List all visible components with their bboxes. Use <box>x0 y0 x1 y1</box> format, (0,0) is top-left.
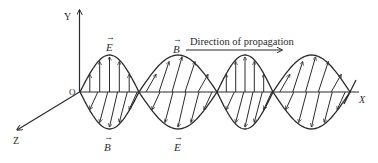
b-field-vector <box>100 92 108 122</box>
wave-curve-upper-2 <box>139 55 217 92</box>
b-field-vector <box>293 62 303 92</box>
wave-curve-lower-2 <box>139 92 217 129</box>
b-field-vector <box>226 92 234 110</box>
b-field-vector <box>254 92 262 122</box>
b-field-vector <box>245 92 253 127</box>
origin-label: O <box>69 87 76 97</box>
b-field-vector <box>306 57 316 92</box>
b-field-vector <box>172 57 182 92</box>
b-field-vector <box>318 62 328 92</box>
em-wave-diagram: Y X Z O → E → B → B → E Direction of pro… <box>0 0 378 163</box>
wave-curve-lower-1 <box>80 92 139 129</box>
wave-curve-lower-4 <box>273 92 350 129</box>
b-field-vector <box>129 92 137 110</box>
e-field-vector <box>152 92 160 110</box>
b-field-vector <box>331 75 341 93</box>
x-axis-label: X <box>358 94 366 105</box>
y-axis-label: Y <box>64 11 71 22</box>
z-axis <box>17 92 80 130</box>
wave-curve-lower-3 <box>217 92 273 129</box>
e-field-vector <box>178 92 186 127</box>
e-field-label-bottom: → E <box>173 132 183 153</box>
e-field-vector <box>165 92 173 122</box>
b-field-vector <box>264 92 272 110</box>
wave-curve-upper-4 <box>273 55 350 92</box>
b-field-vector <box>280 75 290 93</box>
b-field-vector <box>119 92 127 122</box>
svg-text:B: B <box>104 141 111 153</box>
e-field-vector <box>312 92 320 127</box>
b-field-label-top: → B <box>173 34 182 55</box>
b-field-vector <box>159 62 169 92</box>
propagation-label: Direction of propagation <box>190 36 295 47</box>
b-field-vector <box>236 92 244 122</box>
b-field-vector <box>110 92 118 127</box>
b-field-vector <box>185 62 195 92</box>
svg-text:B: B <box>173 43 180 55</box>
svg-text:E: E <box>105 41 113 53</box>
e-field-label-top: → E <box>105 32 115 53</box>
b-field-vector <box>146 75 156 93</box>
e-field-vector <box>299 92 307 122</box>
e-field-vector <box>286 92 294 110</box>
svg-text:E: E <box>173 141 181 153</box>
z-axis-label: Z <box>13 135 19 146</box>
b-field-label-bottom: → B <box>104 132 113 153</box>
b-field-vector <box>90 92 98 110</box>
b-field-vector <box>198 75 208 93</box>
